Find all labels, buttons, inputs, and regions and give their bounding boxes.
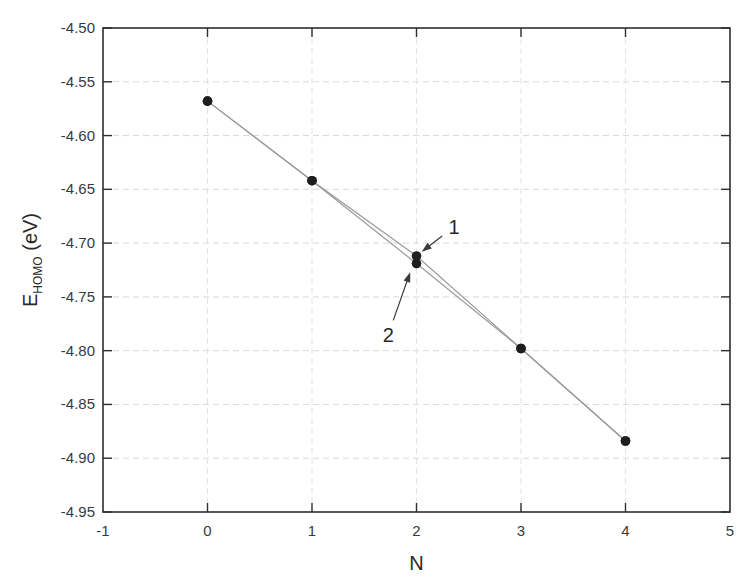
- y-tick-label: -4.75: [61, 288, 95, 305]
- x-tick-label: -1: [96, 522, 109, 539]
- data-point: [621, 436, 631, 446]
- x-tick-label: 5: [726, 522, 734, 539]
- y-tick-label: -4.65: [61, 180, 95, 197]
- arrowhead-icon: [404, 272, 411, 283]
- y-tick-label: -4.50: [61, 19, 95, 36]
- x-tick-label: 4: [621, 522, 629, 539]
- arrowhead-icon: [422, 243, 432, 252]
- gridlines: [103, 28, 730, 512]
- y-tick-label: -4.95: [61, 503, 95, 520]
- chart: -4.95-4.90-4.85-4.80-4.75-4.70-4.65-4.60…: [0, 0, 746, 579]
- y-tick-label: -4.70: [61, 234, 95, 251]
- data-point: [307, 176, 317, 186]
- x-tick-label: 1: [308, 522, 316, 539]
- x-tick-label: 2: [412, 522, 420, 539]
- y-tick-labels: -4.95-4.90-4.85-4.80-4.75-4.70-4.65-4.60…: [61, 19, 95, 520]
- x-tick-label: 3: [517, 522, 525, 539]
- y-tick-label: -4.85: [61, 395, 95, 412]
- data-point: [203, 96, 213, 106]
- x-axis-label: N: [409, 552, 423, 574]
- y-tick-label: -4.90: [61, 449, 95, 466]
- y-tick-label: -4.55: [61, 73, 95, 90]
- data-point: [516, 344, 526, 354]
- y-axis-label-main: E: [19, 294, 41, 307]
- y-axis-label-subscript: HOMO: [31, 256, 45, 293]
- annotation-label-1: 1: [449, 216, 460, 238]
- y-tick-label: -4.80: [61, 342, 95, 359]
- x-tick-labels: -1012345: [96, 522, 734, 539]
- y-axis-label: EHOMO (eV): [19, 213, 45, 307]
- annotation-arrow-shaft: [393, 278, 408, 321]
- y-tick-label: -4.60: [61, 127, 95, 144]
- annotation-label-2: 2: [383, 324, 394, 346]
- x-tick-label: 0: [203, 522, 211, 539]
- annotations: 12: [383, 216, 460, 346]
- y-axis-label-unit: (eV): [19, 213, 41, 256]
- data-point: [412, 259, 422, 269]
